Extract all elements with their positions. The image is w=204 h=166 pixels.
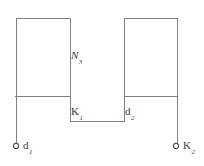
label-terminal-right: K2 bbox=[183, 140, 195, 154]
label-terminal-left-subscript: 1 bbox=[29, 148, 33, 156]
label-node-right: d2 bbox=[125, 106, 134, 120]
label-node-left: K1 bbox=[71, 106, 83, 120]
diagram-canvas: N3 K1 d2 d1 K2 bbox=[0, 0, 204, 166]
conductor-outline-path bbox=[16, 18, 177, 146]
label-node-right-subscript: 2 bbox=[131, 114, 135, 122]
terminal-right-node-icon bbox=[173, 143, 178, 148]
label-node-left-base: K bbox=[71, 105, 79, 117]
label-node-right-base: d bbox=[125, 105, 131, 117]
label-terminal-right-subscript: 2 bbox=[191, 148, 195, 156]
label-winding: N3 bbox=[71, 50, 82, 64]
label-terminal-left: d1 bbox=[23, 140, 32, 154]
label-terminal-left-base: d bbox=[23, 139, 29, 151]
label-winding-subscript: 3 bbox=[79, 58, 83, 66]
terminal-left-node-icon bbox=[13, 143, 18, 148]
label-node-left-subscript: 1 bbox=[79, 114, 83, 122]
label-terminal-right-base: K bbox=[183, 139, 191, 151]
label-winding-base: N bbox=[71, 49, 79, 61]
